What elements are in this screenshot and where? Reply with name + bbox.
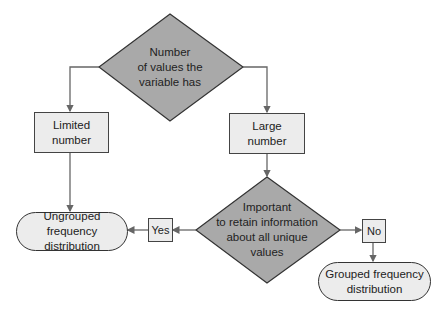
text-line: of values the [137, 60, 202, 75]
large-number-box: Large number [229, 113, 305, 154]
text-line: number [52, 133, 91, 148]
grouped-frequency-distribution-terminal: Grouped frequency distribution [318, 262, 431, 301]
text-line: Ungrouped frequency [17, 209, 127, 239]
text-line: number [248, 134, 287, 149]
ungrouped-frequency-distribution-terminal: Ungrouped frequency distribution [16, 212, 128, 251]
text-line: variable has [139, 75, 201, 90]
no-label: No [367, 224, 381, 239]
text-line: Important [243, 200, 292, 215]
no-label-box: No [362, 219, 386, 243]
yes-label: Yes [152, 223, 170, 238]
decision-bottom-text: Important to retain information about al… [207, 198, 327, 262]
text-line: distribution [44, 239, 100, 254]
limited-number-box: Limited number [34, 112, 109, 153]
text-line: Number [150, 45, 191, 60]
text-line: to retain information [216, 215, 318, 230]
yes-label-box: Yes [148, 218, 173, 242]
text-line: Large [252, 119, 281, 134]
decision-top-text: Number of values the variable has [120, 36, 220, 98]
text-line: Grouped frequency [325, 267, 423, 282]
text-line: distribution [347, 282, 403, 297]
text-line: values [250, 245, 283, 260]
text-line: Limited [53, 118, 90, 133]
text-line: about all unique [226, 230, 307, 245]
